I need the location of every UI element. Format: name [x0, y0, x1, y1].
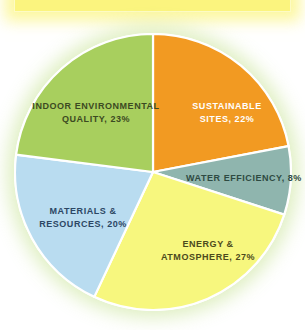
- slice-label-line-2: Resources, 20%: [22, 218, 144, 231]
- slice-label-indoor-environmental-quality: Indoor Environmental Quality, 23%: [20, 100, 172, 126]
- chart-title-banner: LEED - NC CREDIT DISTRIBUTION: [14, 0, 291, 12]
- slice-label-line-2: Quality, 23%: [20, 113, 172, 126]
- slice-label-line-1: Materials &: [22, 205, 144, 218]
- slice-label-line-1: Sustainable: [173, 100, 281, 113]
- slice-label-water-efficiency: Water Efficiency, 8%: [186, 172, 298, 185]
- slice-label-sustainable-sites: Sustainable Sites, 22%: [173, 100, 281, 126]
- slice-label-line-1: Water Efficiency, 8%: [186, 172, 298, 185]
- slice-label-line-1: Energy &: [143, 238, 273, 251]
- page-title: LEED - NC CREDIT DISTRIBUTION: [47, 0, 259, 1]
- slice-label-line-2: Atmosphere, 27%: [143, 251, 273, 264]
- slice-label-line-2: Sites, 22%: [173, 113, 281, 126]
- slice-label-line-1: Indoor Environmental: [20, 100, 172, 113]
- slice-label-energy-and-atmosphere: Energy & Atmosphere, 27%: [143, 238, 273, 264]
- chart-page: LEED - NC CREDIT DISTRIBUTION Indoor Env…: [0, 0, 305, 330]
- slice-label-materials-and-resources: Materials & Resources, 20%: [22, 205, 144, 231]
